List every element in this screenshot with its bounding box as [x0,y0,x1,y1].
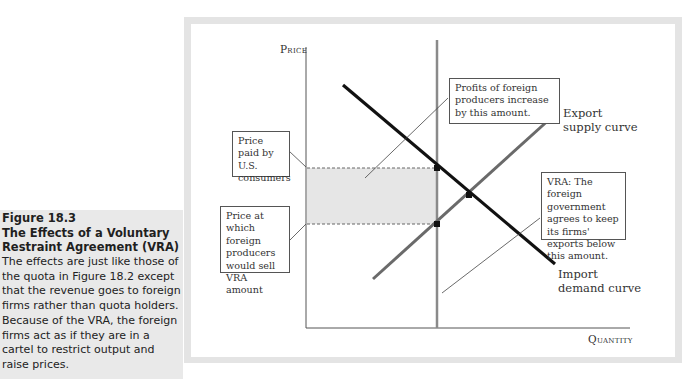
free-trade-equilibrium-point [466,192,472,198]
x-axis-label: Quantity [588,333,633,345]
y-axis-label: Price [280,43,307,55]
profits-annotation: Profits of foreign producers increase by… [449,78,560,124]
vra-annotation: VRA: The foreign government agrees to ke… [541,172,626,240]
price-sell-annotation: Price at which foreign producers would s… [220,206,290,273]
profit-area [307,168,437,224]
demand-curve-label: Import demand curve [558,267,641,295]
producer-price-point [434,221,440,227]
supply-label-line2: supply curve [563,120,638,134]
supply-label-line1: Export [563,106,638,120]
price-paid-leader-line [289,151,306,167]
demand-label-line1: Import [558,267,641,281]
supply-curve-label: Export supply curve [563,106,638,134]
vra-leader-line [442,218,540,293]
demand-label-line2: demand curve [558,281,641,295]
consumer-price-point [434,165,440,171]
price-sell-leader-line [290,224,306,240]
price-paid-annotation: Price paid by U.S. consumers [232,131,290,177]
